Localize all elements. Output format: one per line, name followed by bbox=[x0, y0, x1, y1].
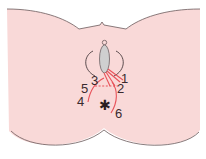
perineum-diagram: ✱ 1 2 3 4 5 6 bbox=[0, 0, 206, 159]
anus-marker: ✱ bbox=[99, 97, 111, 113]
label-3: 3 bbox=[91, 73, 98, 88]
body-silhouette bbox=[7, 9, 200, 145]
label-4: 4 bbox=[77, 94, 84, 109]
label-5: 5 bbox=[81, 81, 88, 96]
vaginal-opening bbox=[100, 45, 110, 73]
label-2: 2 bbox=[117, 81, 124, 96]
label-6: 6 bbox=[115, 106, 122, 121]
